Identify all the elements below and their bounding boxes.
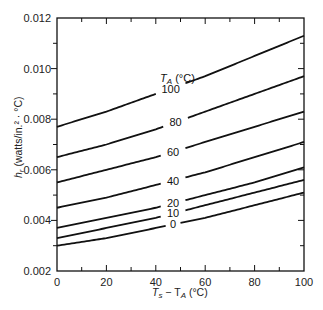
curve-ta-80 — [188, 76, 304, 118]
curve-labels: 10080604020100 — [161, 83, 181, 231]
curves — [57, 36, 304, 246]
x-tick-label: 0 — [54, 276, 60, 288]
y-tick-label: 0.010 — [23, 63, 51, 75]
curve-label-40: 40 — [167, 175, 179, 187]
x-tick-label: 20 — [100, 276, 112, 288]
curve-ta-60 — [185, 112, 304, 148]
plot-frame — [57, 18, 304, 271]
x-tick-label: 80 — [248, 276, 260, 288]
curve-ta-60 — [57, 156, 161, 183]
curve-ta-10 — [57, 217, 161, 239]
legend-title: TA (°C) — [160, 72, 195, 86]
y-tick-label: 0.008 — [23, 113, 51, 125]
x-axis-title: Ts − TA (°C) — [152, 286, 208, 300]
chart: 0204060801000.0020.0040.0060.0080.0100.0… — [0, 0, 323, 310]
y-axis-title: hr (watts/in.² · °C) — [12, 96, 26, 178]
curve-ta-20 — [57, 206, 161, 228]
curve-label-80: 80 — [169, 116, 181, 128]
curve-ta-40 — [57, 184, 161, 208]
y-tick-label: 0.002 — [23, 265, 51, 277]
y-tick-label: 0.012 — [23, 12, 51, 24]
curve-label-0: 0 — [170, 218, 176, 230]
y-tick-label: 0.006 — [23, 164, 51, 176]
x-tick-label: 100 — [295, 276, 313, 288]
curve-ta-100 — [57, 94, 156, 127]
y-tick-label: 0.004 — [23, 214, 51, 226]
curve-ta-100 — [185, 36, 304, 84]
curve-ta-0 — [57, 226, 166, 246]
curve-label-60: 60 — [167, 146, 179, 158]
curve-ta-80 — [57, 127, 163, 157]
